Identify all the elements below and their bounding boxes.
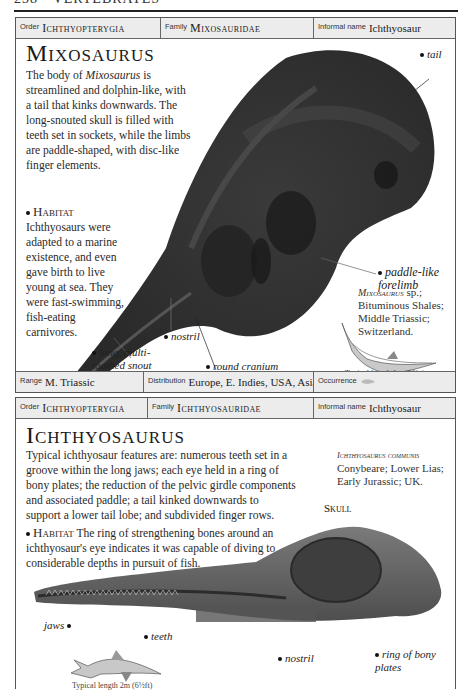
family-cell: Family Ichthyosauridae	[148, 398, 314, 418]
specimen-name: Ichthyosaurus communis	[337, 450, 419, 460]
fish-icon	[360, 378, 376, 386]
informal-name-label: Informal name	[318, 402, 366, 411]
callout-nostril: nostril	[278, 652, 314, 665]
bullet-icon	[92, 351, 96, 355]
specimen-line: Conybeare; Lower Lias;	[337, 462, 444, 474]
callout-text: nostril	[285, 652, 314, 664]
order-value: Ichthyopterygia	[42, 401, 124, 416]
family-label: Family	[152, 402, 174, 411]
specimen-line: Bituminous Shales;	[358, 299, 444, 311]
range-cell: Range M. Triassic	[16, 372, 144, 392]
bullet-icon	[278, 657, 282, 661]
entry-title: Ichthyosaurus	[26, 422, 185, 449]
informal-name-value: Ichthyosaur	[369, 402, 421, 414]
callout-ring-of-bony-plates: ring of bony plates	[375, 648, 445, 674]
habitat-text: Ichthyosaurs were adapted to a marine ex…	[26, 221, 124, 339]
callout-text: ring of bony plates	[375, 648, 436, 673]
typical-length: Typical length 2m (6½ft)	[72, 681, 152, 690]
family-value: Ichthyosauridae	[177, 401, 261, 416]
occurrence-cell: Occurrence	[314, 372, 455, 392]
range-bar: Range M. Triassic Distribution Europe, E…	[16, 371, 455, 392]
taxonomy-bar: Order Ichthyopterygia Family Ichthyosaur…	[16, 398, 455, 419]
distribution-value: Europe, E. Indies, USA, Asia	[189, 376, 314, 388]
order-cell: Order Ichthyopterygia	[16, 398, 148, 418]
entry-mixosaurus: Order Ichthyopterygia Family Mixosaurida…	[15, 17, 456, 393]
entry-ichthyosaurus: Order Ichthyopterygia Family Ichthyosaur…	[15, 397, 456, 689]
callout-jaws: jaws	[44, 619, 74, 632]
range-label: Range	[20, 376, 42, 385]
description-italic: Mixosaurus	[86, 69, 141, 82]
ichthyosaurus-skull-image	[16, 510, 457, 630]
informal-name-cell: Informal name Ichthyosaur	[314, 398, 455, 418]
habitat-label: Habitat	[33, 204, 74, 219]
description-text-cont: is streamlined and dolphin-like, with a …	[26, 69, 191, 172]
bullet-icon	[67, 624, 71, 628]
callout-snout: long, multi-toothed snout	[92, 346, 167, 372]
bullet-icon	[420, 53, 424, 57]
distribution-label: Distribution	[148, 376, 186, 385]
callout-text: tail	[427, 48, 442, 60]
bullet-icon	[206, 365, 210, 369]
callout-text: nostril	[171, 330, 200, 342]
header-rule	[14, 10, 458, 12]
specimen-suffix: sp.;	[406, 286, 422, 298]
specimen-name: Mixosaurus	[358, 287, 404, 298]
description-text: The body of	[26, 69, 86, 82]
running-head: 238 • VERTEBRATES	[14, 0, 160, 7]
specimen-line: Early Jurassic; UK.	[337, 475, 423, 487]
callout-text: jaws	[44, 619, 64, 631]
specimen-info: Ichthyosaurus communis Conybeare; Lower …	[337, 448, 452, 488]
occurrence-label: Occurrence	[318, 376, 357, 385]
entry-title: Mixosaurus	[26, 40, 155, 67]
habitat-paragraph: Habitat Ichthyosaurs were adapted to a m…	[26, 204, 126, 340]
bullet-icon	[375, 653, 379, 657]
callout-nostril: nostril	[164, 330, 200, 343]
callout-text: long, multi-toothed snout	[92, 346, 152, 371]
bullet-icon	[378, 271, 382, 275]
distribution-cell: Distribution Europe, E. Indies, USA, Asi…	[144, 372, 314, 392]
bullet-icon	[26, 211, 30, 215]
bullet-icon	[164, 335, 168, 339]
callout-tail: tail	[420, 48, 442, 61]
range-value: M. Triassic	[45, 376, 95, 388]
entry-description: The body of Mixosaurus is streamlined an…	[26, 68, 191, 173]
order-label: Order	[20, 402, 39, 411]
